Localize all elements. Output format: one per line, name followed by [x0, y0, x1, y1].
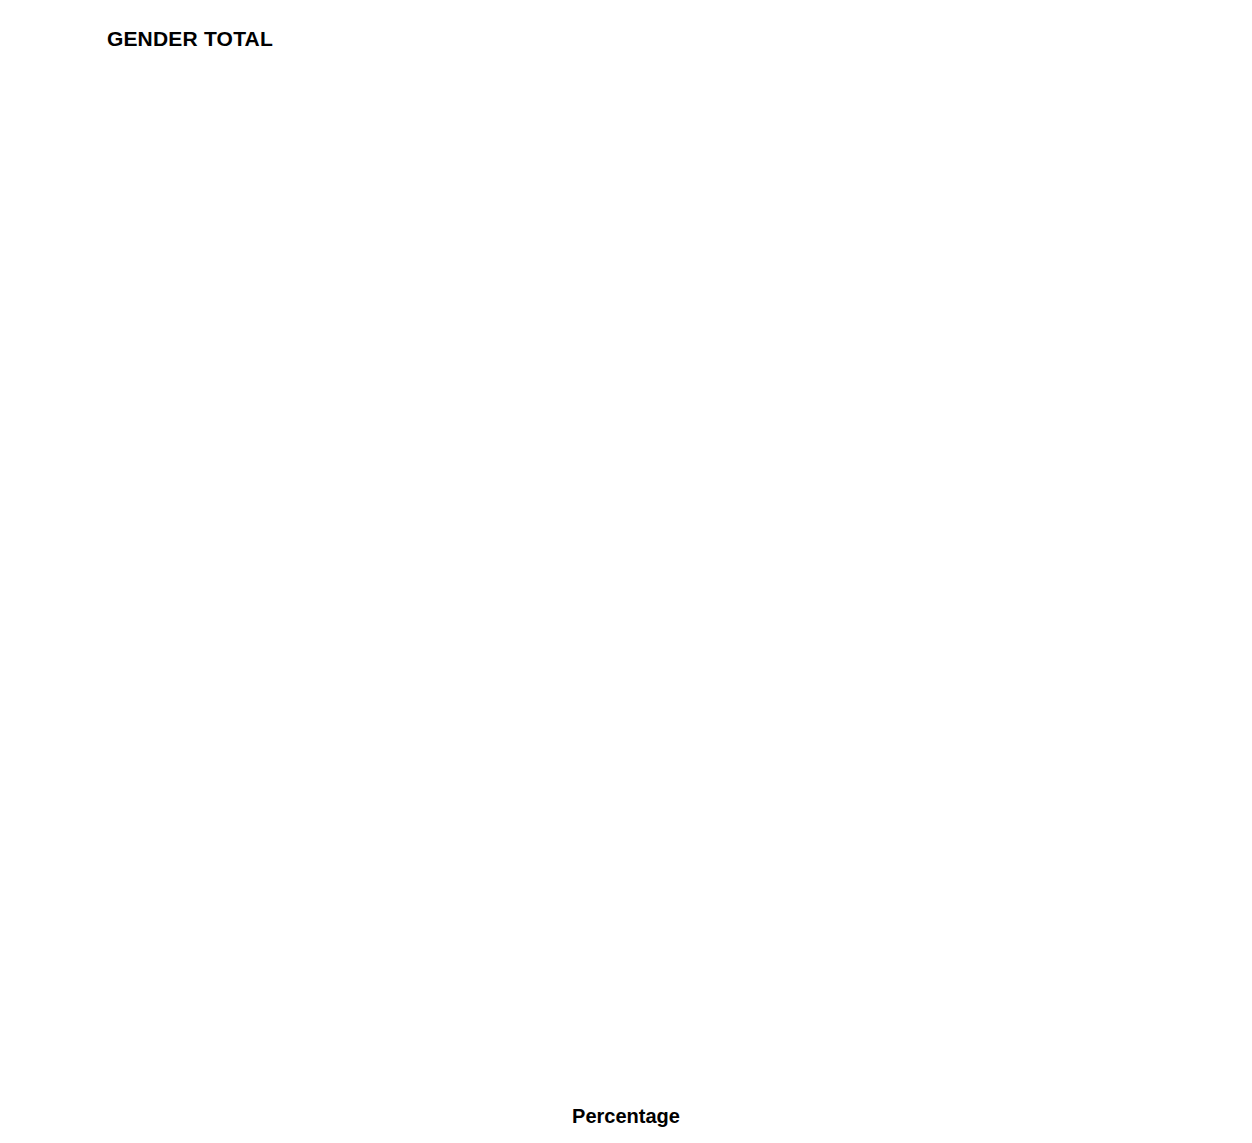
- chart-root: GENDER TOTAL Percentage: [0, 0, 1252, 1143]
- x-axis-title: Percentage: [572, 1105, 680, 1127]
- category-labels-layer: GENDER TOTAL: [107, 27, 273, 50]
- section-header-0: GENDER TOTAL: [107, 27, 273, 50]
- chart-background: [0, 0, 1252, 1143]
- horizontal-bar-chart: GENDER TOTAL Percentage: [0, 0, 1252, 1143]
